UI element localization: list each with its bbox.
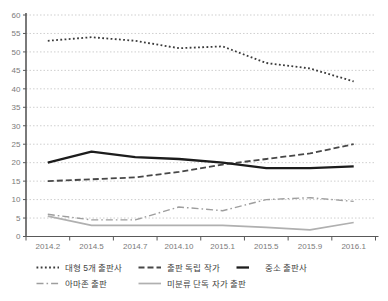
legend-item-label: 출판 독립 작가 xyxy=(167,261,220,273)
x-tick-label: 2014.5 xyxy=(79,242,104,251)
x-tick-label: 2015.5 xyxy=(254,242,279,251)
legend-line-symbol xyxy=(138,279,162,288)
y-tick-label: 30 xyxy=(12,122,21,131)
legend-line-symbol xyxy=(36,279,60,288)
y-tick-label: 5 xyxy=(16,214,21,223)
legend-item: 아마존 출판 xyxy=(36,277,107,289)
chart-page: { "chart_data": { "type": "line", "title… xyxy=(0,0,388,301)
y-tick-label: 0 xyxy=(16,232,21,241)
legend-line-symbol xyxy=(138,263,162,272)
legend-line-symbol xyxy=(36,263,60,272)
y-tick-label: 40 xyxy=(12,85,21,94)
y-tick-label: 25 xyxy=(12,140,21,149)
series-line-0 xyxy=(48,37,354,81)
line-chart: 0510152025303540455055602014.22014.52014… xyxy=(0,0,388,256)
legend-item: 출판 독립 작가 xyxy=(138,261,220,273)
legend-line-symbol xyxy=(236,263,260,272)
y-tick-label: 50 xyxy=(12,48,21,57)
x-tick-label: 2015.9 xyxy=(298,242,323,251)
x-tick-label: 2014.2 xyxy=(36,242,61,251)
x-tick-label: 2015.1 xyxy=(210,242,235,251)
series-line-3 xyxy=(48,198,354,220)
legend-item-label: 아마존 출판 xyxy=(65,277,107,289)
x-tick-label: 2014.7 xyxy=(123,242,148,251)
y-tick-label: 55 xyxy=(12,29,21,38)
x-tick-label: 2016.1 xyxy=(341,242,366,251)
y-tick-label: 15 xyxy=(12,177,21,186)
y-tick-label: 45 xyxy=(12,66,21,75)
y-tick-label: 20 xyxy=(12,158,21,167)
y-tick-label: 10 xyxy=(12,195,21,204)
legend-item-label: 미분류 단독 자가 출판 xyxy=(167,277,246,289)
legend-item: 중소 출판사 xyxy=(236,261,307,273)
y-tick-label: 60 xyxy=(12,11,21,20)
chart-legend: 대형 5개 출판사출판 독립 작가중소 출판사아마존 출판미분류 단독 자가 출… xyxy=(0,258,388,298)
x-tick-label: 2014.10 xyxy=(164,242,193,251)
line-chart-canvas: 0510152025303540455055602014.22014.52014… xyxy=(0,0,388,256)
legend-item-label: 중소 출판사 xyxy=(265,261,307,273)
legend-item-label: 대형 5개 출판사 xyxy=(65,261,122,273)
legend-item: 미분류 단독 자가 출판 xyxy=(138,277,246,289)
legend-item: 대형 5개 출판사 xyxy=(36,261,122,273)
y-tick-label: 35 xyxy=(12,103,21,112)
